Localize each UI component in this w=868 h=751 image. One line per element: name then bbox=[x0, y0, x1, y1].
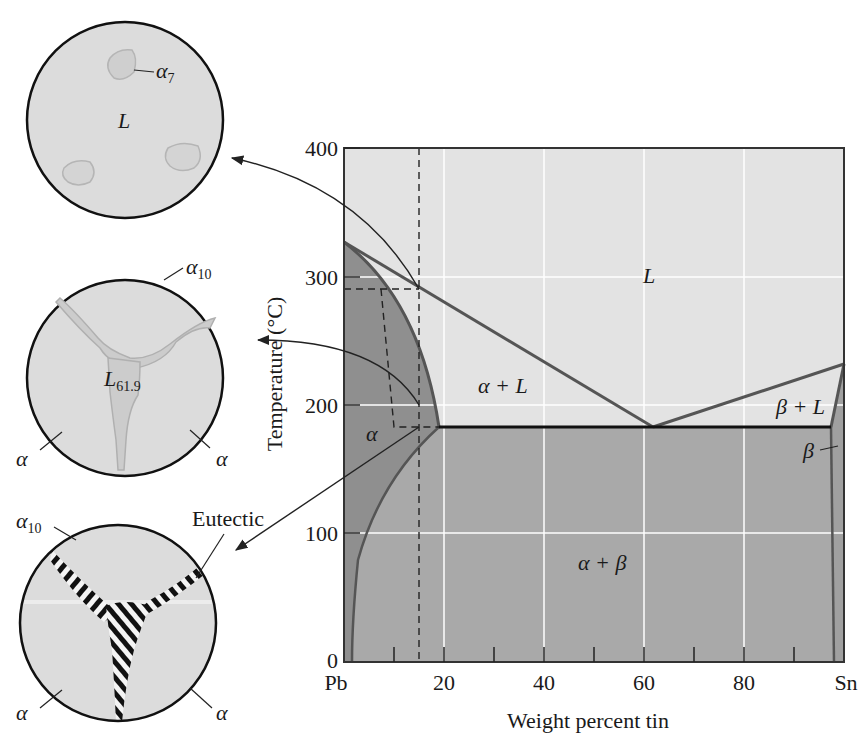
svg-text:Sn: Sn bbox=[834, 670, 857, 695]
svg-text:40: 40 bbox=[533, 670, 555, 695]
region-label-alpha-liquid: α + L bbox=[478, 373, 528, 398]
label-alpha-left: α bbox=[16, 700, 28, 725]
x-axis-labels: Pb 20 40 60 80 Sn bbox=[324, 670, 857, 695]
region-label-alpha-beta: α + β bbox=[578, 550, 626, 575]
svg-text:80: 80 bbox=[733, 670, 755, 695]
alpha-beta-region bbox=[344, 427, 834, 662]
y-axis-title: Temperature (°C) bbox=[262, 297, 287, 451]
label-alpha-right: α bbox=[216, 700, 228, 725]
micrograph-alpha-liquid: α10 L61.9 α α bbox=[16, 254, 228, 476]
label-alpha10: α10 bbox=[16, 508, 42, 536]
label-eutectic: Eutectic bbox=[192, 506, 264, 531]
region-label-alpha: α bbox=[366, 421, 378, 446]
micrograph-liquid-alpha7: α7 L bbox=[27, 22, 223, 218]
region-label-beta-liquid: β + L bbox=[775, 394, 825, 419]
alpha-grain bbox=[165, 143, 200, 170]
svg-text:20: 20 bbox=[433, 670, 455, 695]
label-alpha-right: α bbox=[216, 446, 228, 471]
region-label-liquid: L bbox=[642, 263, 655, 288]
y-axis-labels: 400 300 200 100 0 bbox=[305, 136, 338, 673]
svg-text:300: 300 bbox=[305, 265, 338, 290]
label-alpha10: α10 bbox=[186, 254, 212, 282]
phase-diagram-figure: L α + L α α + β β + L β 400 300 200 100 … bbox=[0, 0, 868, 751]
svg-text:100: 100 bbox=[305, 521, 338, 546]
micrograph-eutectic: α10 Eutectic α α bbox=[16, 506, 264, 725]
svg-text:60: 60 bbox=[633, 670, 655, 695]
svg-text:Pb: Pb bbox=[324, 670, 347, 695]
alpha-grain bbox=[63, 161, 94, 185]
region-label-beta: β bbox=[802, 438, 814, 463]
svg-text:200: 200 bbox=[305, 393, 338, 418]
label-L: L bbox=[117, 108, 130, 133]
svg-text:400: 400 bbox=[305, 136, 338, 161]
x-axis-title: Weight percent tin bbox=[507, 708, 669, 733]
label-alpha-left: α bbox=[16, 446, 28, 471]
